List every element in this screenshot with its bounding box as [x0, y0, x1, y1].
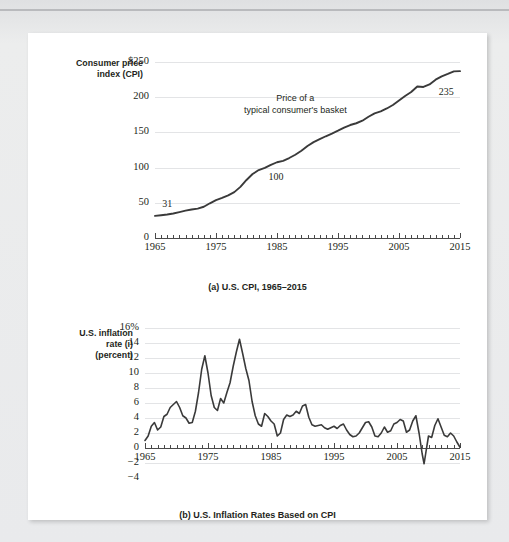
data-series-line	[145, 328, 460, 478]
x-tick-label: 1995	[316, 241, 360, 252]
y-tick-label: −4	[99, 471, 139, 482]
y-tick-label: $250	[109, 55, 149, 66]
y-tick-label: 12	[99, 351, 139, 362]
figure-card: Consumer price index (CPI) $250200150100…	[28, 33, 487, 520]
chart-inflation: U.S. inflation rate (i) (percent) 16%141…	[28, 298, 487, 520]
y-tick-label: 100	[109, 161, 149, 172]
chart-cpi-caption: (a) U.S. CPI, 1965–2015	[28, 282, 487, 292]
figure-page: Consumer price index (CPI) $250200150100…	[0, 0, 509, 542]
y-tick-label: 8	[99, 381, 139, 392]
chart-inflation-plot-area: 16%14121086420−2−41965197519851995200520…	[145, 328, 460, 478]
y-tick-label: 6	[99, 396, 139, 407]
y-tick-label: 200	[109, 90, 149, 101]
y-tick-label: 150	[109, 125, 149, 136]
x-tick-label: 2015	[438, 241, 482, 252]
y-tick-label: 14	[99, 336, 139, 347]
start-value-label: 31	[162, 198, 172, 209]
chart-cpi-plot-area: $250200150100500196519751985199520052015…	[155, 62, 460, 238]
x-tick-label: 1965	[133, 241, 177, 252]
data-series-line	[155, 62, 460, 238]
x-axis-tick	[460, 233, 461, 238]
mid-value-label: 100	[269, 171, 284, 182]
y-tick-label: 10	[99, 366, 139, 377]
chart-inflation-caption: (b) U.S. Inflation Rates Based on CPI	[28, 510, 487, 520]
y-tick-label: 2	[99, 426, 139, 437]
annotation-line: Price of a	[225, 93, 365, 105]
annotation-line: typical consumer's basket	[225, 105, 365, 117]
x-axis-line	[155, 238, 460, 239]
chart-cpi: Consumer price index (CPI) $250200150100…	[28, 33, 487, 273]
page-top-rule	[0, 9, 509, 11]
x-tick-label: 2005	[377, 241, 421, 252]
x-tick-label: 1985	[255, 241, 299, 252]
y-tick-label: 50	[109, 196, 149, 207]
y-tick-label: 16%	[99, 321, 139, 332]
basket-annotation: Price of atypical consumer's basket	[225, 93, 365, 116]
end-value-label: 235	[439, 86, 454, 97]
x-tick-label: 1975	[194, 241, 238, 252]
y-tick-label: 4	[99, 411, 139, 422]
y-title-line-2: index (CPI)	[38, 69, 143, 80]
